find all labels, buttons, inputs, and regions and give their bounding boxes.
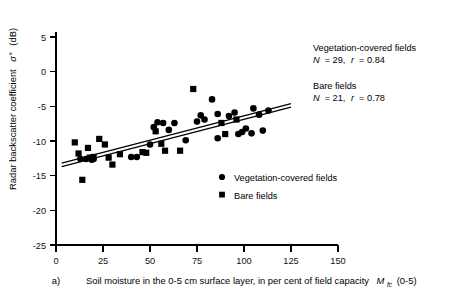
x-axis-title: Soil moisture in the 0-5 cm surface laye… xyxy=(86,275,417,289)
y-tick-label-minus15: -15 xyxy=(33,171,46,181)
chart-legend: Vegetation-covered fields Bare fields xyxy=(219,173,338,201)
y-tick-label-minus25: -25 xyxy=(33,241,46,251)
data-point xyxy=(162,148,168,154)
data-point xyxy=(85,145,91,151)
x-tick-label-50: 50 xyxy=(145,256,155,266)
figure-container: Radar backscatter coefficient σ° (dB) 5 … xyxy=(0,0,472,297)
data-point xyxy=(214,111,221,118)
x-axis-symbol: M xyxy=(377,275,385,286)
data-point xyxy=(109,161,115,167)
veg-annotation: Vegetation-covered fields N = 29, r = 0.… xyxy=(313,43,417,65)
data-point xyxy=(128,154,135,161)
veg-r-symbol: r xyxy=(351,55,355,65)
y-axis-ticks: 5 0 -5 -10 -15 -20 -25 xyxy=(33,33,56,251)
x-tick-label-125: 125 xyxy=(283,256,298,266)
x-tick-label-0: 0 xyxy=(53,256,58,266)
data-point xyxy=(248,130,255,137)
y-axis-title-text: Radar backscatter coefficient xyxy=(7,69,18,190)
y-axis-title: Radar backscatter coefficient σ° (dB) xyxy=(7,28,18,190)
y-tick-label-minus20: -20 xyxy=(33,206,46,216)
legend-marker-circle-icon xyxy=(219,174,225,180)
data-point xyxy=(96,136,102,142)
veg-annotation-line1: Vegetation-covered fields xyxy=(313,43,417,53)
data-point xyxy=(171,120,178,127)
data-point xyxy=(182,137,189,144)
data-point xyxy=(166,127,173,134)
panel-label: a) xyxy=(52,275,60,286)
veg-r-value: = 0.84 xyxy=(359,55,385,65)
data-point xyxy=(153,128,159,134)
bare-n-symbol: N xyxy=(313,93,320,103)
data-point xyxy=(177,148,183,154)
data-point xyxy=(243,125,250,132)
regression-line xyxy=(62,107,291,167)
x-tick-label-25: 25 xyxy=(98,256,108,266)
veg-n-value: = 29, xyxy=(325,55,346,65)
data-point xyxy=(75,150,81,156)
svg-text:Radar backscatter coefficient: Radar backscatter coefficient σ° (dB) xyxy=(7,28,18,190)
y-tick-label-0: 0 xyxy=(41,67,46,77)
x-tick-label-75: 75 xyxy=(192,256,202,266)
data-point xyxy=(222,131,228,137)
legend-label-bare: Bare fields xyxy=(234,191,278,201)
x-axis-ticks: 0 25 50 75 100 125 150 xyxy=(53,245,345,266)
data-point xyxy=(72,139,78,145)
data-point xyxy=(160,120,167,127)
veg-annotation-line2: N = 29, r = 0.84 xyxy=(313,55,385,65)
data-point xyxy=(134,154,141,161)
regression-lines-layer xyxy=(62,104,291,167)
x-axis-subscript: fc xyxy=(387,281,393,288)
data-point xyxy=(190,86,196,92)
y-axis-symbol: σ° xyxy=(7,52,18,62)
data-point xyxy=(209,96,216,103)
y-tick-label-5: 5 xyxy=(41,33,46,43)
y-axis-units: (dB) xyxy=(7,28,18,46)
data-point xyxy=(194,118,201,125)
data-point xyxy=(214,135,221,142)
bare-annotation: Bare fields N = 21, r = 0.78 xyxy=(313,81,385,103)
bare-annotation-line1: Bare fields xyxy=(313,81,357,91)
x-tick-label-100: 100 xyxy=(236,256,251,266)
data-point xyxy=(231,109,238,116)
bare-annotation-line2: N = 21, r = 0.78 xyxy=(313,93,385,103)
data-point xyxy=(260,127,267,134)
bare-r-symbol: r xyxy=(351,93,355,103)
veg-n-symbol: N xyxy=(313,55,320,65)
data-point xyxy=(250,105,257,112)
scatter-chart: Radar backscatter coefficient σ° (dB) 5 … xyxy=(0,0,472,297)
y-tick-label-minus10: -10 xyxy=(33,137,46,147)
x-axis-suffix: (0-5) xyxy=(397,275,417,286)
data-point xyxy=(143,150,149,156)
data-point xyxy=(102,141,108,147)
y-tick-label-minus5: -5 xyxy=(38,102,46,112)
legend-marker-square-icon xyxy=(219,192,225,198)
data-point xyxy=(79,177,85,183)
series-vegetation xyxy=(77,96,272,163)
data-point xyxy=(154,119,161,126)
regression-line xyxy=(62,104,291,164)
data-point xyxy=(226,113,233,120)
data-point xyxy=(201,116,208,123)
x-axis-title-text: Soil moisture in the 0-5 cm surface laye… xyxy=(86,275,369,286)
bare-r-value: = 0.78 xyxy=(359,93,385,103)
bare-n-value: = 21, xyxy=(325,93,346,103)
legend-label-vegetation: Vegetation-covered fields xyxy=(234,173,338,183)
x-tick-label-150: 150 xyxy=(330,256,345,266)
